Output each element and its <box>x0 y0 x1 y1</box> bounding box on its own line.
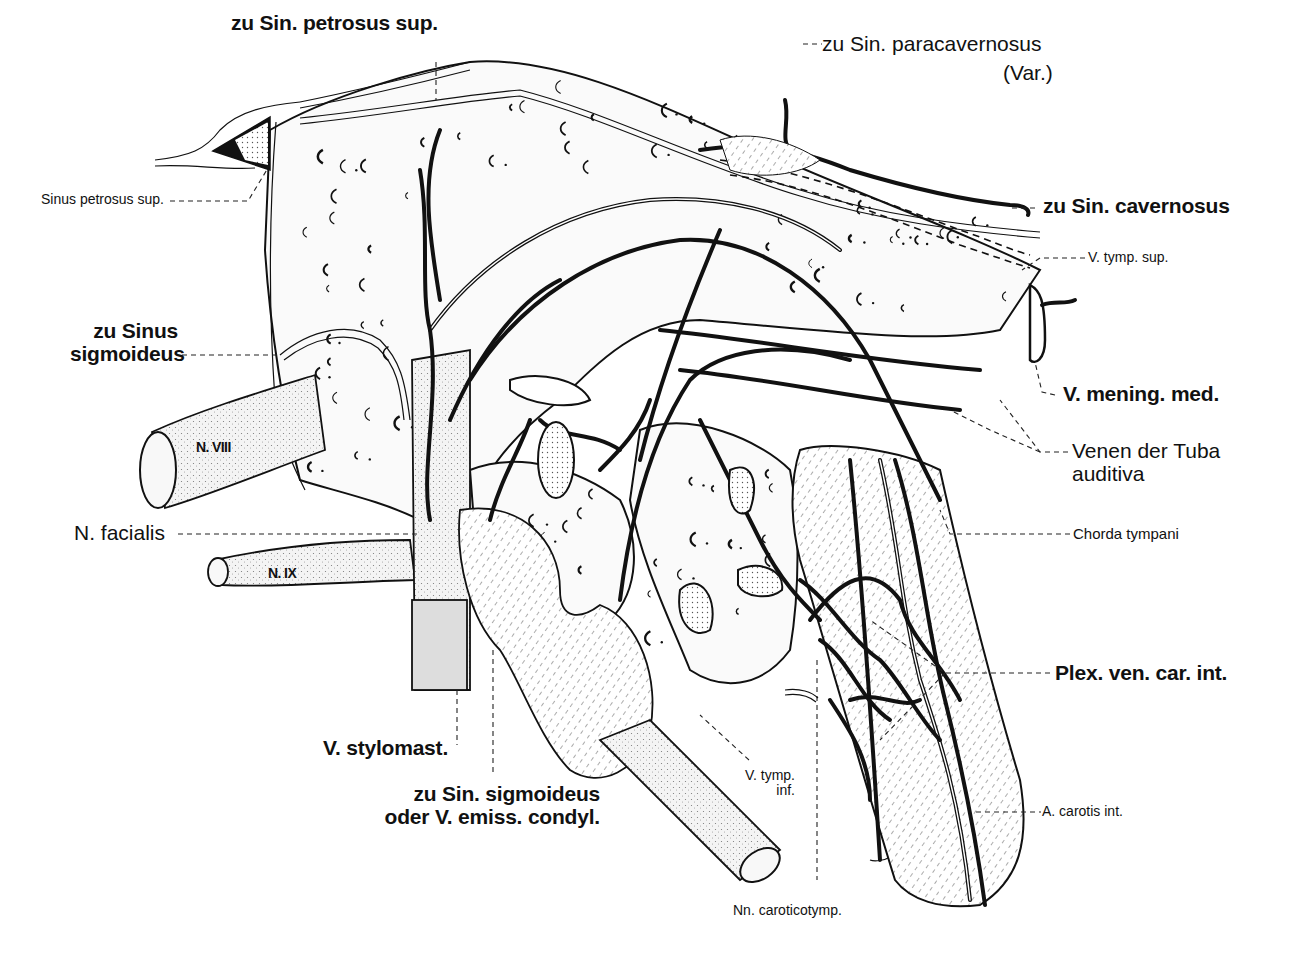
label-chorda-tympani: Chorda tympani <box>1073 526 1179 542</box>
bone-pit-mark <box>973 217 976 226</box>
bone-pit-dot <box>661 641 663 643</box>
label-zu-sinus-sigmoideus-line1: zu Sinus <box>70 320 178 343</box>
carotid-artery <box>793 446 1024 906</box>
bone-pit-dot <box>355 169 357 171</box>
label-zu-sin-paracavernosus: zu Sin. paracavernosus <box>822 33 1041 56</box>
bone-pit-dot <box>909 236 911 238</box>
label-n-viii: N. VIII <box>196 440 231 455</box>
label-v-tymp-inf: V. tymp. inf. <box>735 768 795 798</box>
internal-jugular-tube <box>600 720 786 889</box>
inferior-tympanic-vein <box>785 689 818 702</box>
label-zu-sin-sigmoideus-condyl: zu Sin. sigmoideus oder V. emiss. condyl… <box>345 783 600 828</box>
label-n-ix: N. IX <box>268 566 296 581</box>
bone-pit-dot <box>702 484 704 486</box>
bone-pit-dot <box>546 523 548 525</box>
label-n-facialis: N. facialis <box>74 522 165 545</box>
bone-pit-dot <box>822 266 824 268</box>
bone-pit-dot <box>667 154 669 156</box>
bone-pit-dot <box>706 542 708 544</box>
bone-pit-dot <box>554 540 556 542</box>
bone-pit-dot <box>328 376 330 378</box>
bone-pit-dot <box>902 243 904 245</box>
bone-pit-dot <box>321 470 323 472</box>
label-venen-tuba-line1: Venen der Tuba <box>1072 440 1220 463</box>
nerve-viii <box>140 375 325 508</box>
label-v-tymp-sup: V. tymp. sup. <box>1088 250 1168 265</box>
label-v-tymp-inf-line1: V. tymp. <box>735 768 795 783</box>
label-zu-sin-sigmoideus-condyl-line2: oder V. emiss. condyl. <box>345 806 600 829</box>
bone-pit-mark <box>648 591 651 598</box>
label-sinus-petrosus-sup: Sinus petrosus sup. <box>41 192 164 207</box>
label-plex-ven-car-int: Plex. ven. car. int. <box>1055 662 1227 685</box>
nerve-ix <box>208 540 415 586</box>
label-zu-sin-cavernosus: zu Sin. cavernosus <box>1043 195 1230 218</box>
label-zu-sin-sigmoideus-condyl-line1: zu Sin. sigmoideus <box>345 783 600 806</box>
bone-pit-dot <box>926 243 928 245</box>
label-v-tymp-inf-line2: inf. <box>735 783 795 798</box>
label-zu-sin-petrosus-sup: zu Sin. petrosus sup. <box>231 12 438 35</box>
bone-pit-dot <box>957 236 959 238</box>
label-venen-tuba-auditiva: Venen der Tuba auditiva <box>1072 440 1220 485</box>
bone-pit-dot <box>703 122 705 124</box>
bone-pit-mark <box>645 631 650 645</box>
label-v-mening-med: V. mening. med. <box>1063 383 1219 406</box>
bone-pit-dot <box>872 302 874 304</box>
label-zu-sinus-sigmoideus: zu Sinus sigmoideus <box>70 320 178 365</box>
label-venen-tuba-line2: auditiva <box>1072 463 1220 486</box>
label-nn-caroticotymp: Nn. caroticotymp. <box>733 903 842 918</box>
middle-meningeal-vein <box>1030 285 1075 362</box>
bone-pit-dot <box>338 342 340 344</box>
bone-pit-dot <box>692 577 694 579</box>
bone-pit-dot <box>675 113 677 115</box>
bone-pit-dot <box>740 547 742 549</box>
bone-pit-dot <box>863 241 865 243</box>
label-v-stylomast: V. stylomast. <box>323 737 448 760</box>
label-zu-sinus-sigmoideus-line2: sigmoideus <box>70 343 178 366</box>
label-a-carotis-int: A. carotis int. <box>1042 804 1123 819</box>
bone-pit-dot <box>369 458 371 460</box>
bone-pit-dot <box>505 164 507 166</box>
label-zu-sin-paracavernosus-var: (Var.) <box>1003 62 1053 85</box>
